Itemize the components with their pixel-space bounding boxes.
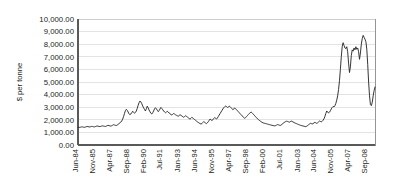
x-axis-tick-label: Nov-85 — [88, 149, 97, 173]
x-axis-tick-label: Jan-03 — [293, 149, 302, 172]
y-axis-tick-label: 10,000.00 — [39, 15, 74, 24]
x-axis-tick-label: Jul-01 — [275, 149, 284, 170]
y-axis-tick-label: 2,000.00 — [44, 116, 75, 125]
x-axis-tick-labels: Jun-84Nov-85Apr-87Sep-88Feb-90Jul-91Jan-… — [71, 149, 369, 174]
y-axis-tick-label: 5,000.00 — [44, 78, 75, 87]
y-axis-title: $ per tonne — [15, 63, 24, 101]
y-axis-tick-label: 6,000.00 — [44, 65, 75, 74]
y-axis-tick-label: 4,000.00 — [44, 90, 75, 99]
x-axis-tick-label: Nov-95 — [207, 149, 216, 173]
y-axis-title-label: $ per tonne — [15, 63, 24, 101]
x-axis-tick-label: Apr-97 — [224, 149, 233, 172]
y-axis-tick-label: 0.00 — [59, 141, 75, 150]
x-axis-tick-label: Feb-00 — [258, 149, 267, 173]
y-axis-tick-label: 7,000.00 — [44, 53, 75, 62]
commodity-price-line-chart: 0.001,000.002,000.003,000.004,000.005,00… — [0, 0, 397, 193]
y-axis-tick-label: 8,000.00 — [44, 40, 75, 49]
x-axis-tick-label: Jun-04 — [309, 149, 318, 172]
y-axis-tick-label: 3,000.00 — [44, 103, 75, 112]
x-axis-tick-label: Nov-05 — [326, 149, 335, 173]
x-axis-tick-label: Sep-98 — [241, 149, 250, 174]
x-axis-tick-label: Sep-08 — [360, 149, 369, 174]
y-axis-tick-label: 1,000.00 — [44, 128, 75, 137]
y-axis-tick-labels: 0.001,000.002,000.003,000.004,000.005,00… — [39, 15, 74, 150]
x-axis-tick-label: Sep-88 — [122, 149, 131, 174]
x-axis-tick-label: Jan-93 — [173, 149, 182, 172]
y-axis-tick-label: 9,000.00 — [44, 27, 75, 36]
x-axis-tick-label: Jun-94 — [190, 149, 199, 172]
x-axis-tick-label: Apr-07 — [343, 149, 352, 172]
chart-container: 0.001,000.002,000.003,000.004,000.005,00… — [0, 0, 397, 193]
x-axis-tick-label: Feb-90 — [139, 149, 148, 173]
x-axis-tick-label: Apr-87 — [105, 149, 114, 172]
x-axis-tick-label: Jun-84 — [71, 149, 80, 172]
x-axis-tick-label: Jul-91 — [155, 149, 164, 170]
